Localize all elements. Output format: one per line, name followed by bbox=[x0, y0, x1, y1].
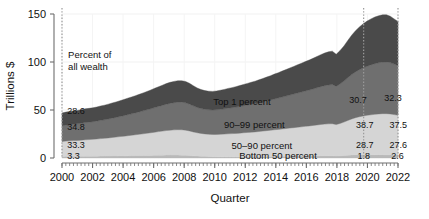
value-label-s2-2: 37.5 bbox=[390, 120, 408, 130]
x-tick-label: 2010 bbox=[202, 171, 226, 183]
value-label-s0-0: 3.3 bbox=[67, 151, 80, 161]
value-label-s3-1: 30.7 bbox=[349, 95, 367, 105]
x-tick-label: 2012 bbox=[233, 171, 257, 183]
y-tick-label: 100 bbox=[28, 56, 46, 68]
value-label-s2-1: 38.7 bbox=[356, 120, 374, 130]
series-label-1: 50–90 percent bbox=[232, 140, 293, 151]
x-tick-label: 2008 bbox=[172, 171, 196, 183]
y-tick-label: 50 bbox=[34, 104, 46, 116]
x-tick-label: 2006 bbox=[141, 171, 165, 183]
value-label-s1-0: 33.3 bbox=[67, 140, 85, 150]
y-tick-label: 0 bbox=[40, 152, 46, 164]
y-tick-label: 150 bbox=[28, 8, 46, 20]
series-label-0: Bottom 50 percent bbox=[239, 150, 317, 161]
value-label-s2-0: 34.8 bbox=[67, 122, 85, 132]
value-label-s1-2: 27.6 bbox=[390, 140, 408, 150]
x-tick-label: 2014 bbox=[264, 171, 288, 183]
value-label-s3-2: 32.3 bbox=[384, 93, 402, 103]
x-tick-label: 2016 bbox=[294, 171, 318, 183]
percent-of-all-wealth-line2: all wealth bbox=[68, 61, 108, 72]
x-axis-title: Quarter bbox=[211, 192, 250, 204]
percent-of-all-wealth-line1: Percent of bbox=[68, 49, 112, 60]
x-tick-label: 2004 bbox=[111, 171, 135, 183]
chart-canvas: 2000200220042006200820102012201420162018… bbox=[0, 0, 429, 219]
x-tick-label: 2018 bbox=[325, 171, 349, 183]
x-tick-label: 2022 bbox=[386, 171, 410, 183]
value-label-s0-1: 1.8 bbox=[358, 151, 371, 161]
stacked-area-chart-figure: 2000200220042006200820102012201420162018… bbox=[0, 0, 429, 219]
x-tick-label: 2000 bbox=[50, 171, 74, 183]
value-label-s0-2: 2.6 bbox=[391, 151, 404, 161]
series-label-3: Top 1 percent bbox=[213, 96, 271, 107]
value-label-s3-0: 28.6 bbox=[67, 106, 85, 116]
x-tick-label: 2020 bbox=[355, 171, 379, 183]
y-axis-title: Trillions $ bbox=[4, 61, 16, 110]
x-tick-label: 2002 bbox=[80, 171, 104, 183]
series-label-2: 90–99 percent bbox=[224, 119, 285, 130]
value-label-s1-1: 28.7 bbox=[356, 140, 374, 150]
